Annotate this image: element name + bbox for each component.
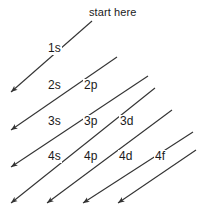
orbital-label-3d: 3d xyxy=(119,115,134,128)
aufbau-arrows-svg xyxy=(0,0,203,217)
orbital-label-1s: 1s xyxy=(47,42,62,55)
orbital-label-2p: 2p xyxy=(83,79,98,92)
orbital-label-3p: 3p xyxy=(83,115,98,128)
start-here-label: start here xyxy=(89,6,136,18)
diagonal-arrow xyxy=(83,132,193,203)
diagonal-arrow xyxy=(11,57,117,130)
orbital-label-2s: 2s xyxy=(47,79,62,92)
diagonal-arrow xyxy=(11,88,155,203)
orbital-label-4d: 4d xyxy=(118,150,133,163)
orbital-label-4f: 4f xyxy=(154,150,166,163)
orbital-label-3s: 3s xyxy=(47,115,62,128)
orbital-label-4s: 4s xyxy=(47,150,62,163)
aufbau-diagram: start here 1s2s2p3s3p3d4s4p4d4f xyxy=(0,0,203,217)
orbital-label-4p: 4p xyxy=(83,150,98,163)
